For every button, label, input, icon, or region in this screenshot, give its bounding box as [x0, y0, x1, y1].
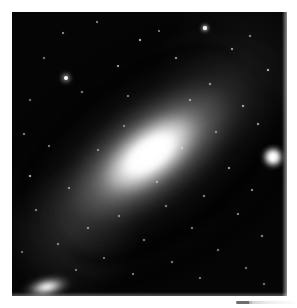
foreground-star — [68, 187, 70, 189]
foreground-star — [245, 267, 247, 269]
foreground-star — [217, 249, 219, 251]
foreground-star — [23, 133, 25, 135]
foreground-star — [156, 181, 158, 183]
foreground-star — [181, 147, 183, 149]
foreground-star — [237, 213, 239, 215]
foreground-star — [191, 227, 193, 229]
foreground-star — [203, 195, 205, 197]
foreground-star — [123, 125, 125, 127]
foreground-star — [132, 273, 134, 275]
foreground-star — [75, 269, 77, 271]
foreground-star — [199, 277, 201, 279]
foreground-star — [97, 149, 99, 151]
foreground-star — [271, 159, 273, 161]
foreground-star — [43, 57, 45, 59]
foreground-star — [215, 131, 217, 133]
foreground-star — [175, 57, 177, 59]
foreground-star — [48, 145, 50, 147]
foreground-star — [209, 83, 211, 85]
foreground-star — [171, 261, 173, 263]
foreground-star — [21, 251, 23, 253]
foreground-star — [263, 283, 265, 285]
foreground-star — [62, 32, 64, 34]
foreground-star — [29, 99, 31, 101]
foreground-star — [118, 215, 120, 217]
foreground-star — [57, 243, 59, 245]
foreground-star — [96, 21, 98, 23]
foreground-star — [189, 99, 191, 101]
foreground-star — [165, 205, 167, 207]
foreground-star — [203, 26, 206, 29]
foreground-star — [35, 209, 37, 211]
image-viewer-stage — [0, 0, 297, 308]
foreground-star — [103, 257, 105, 259]
foreground-star — [143, 239, 145, 241]
foreground-star — [249, 35, 251, 37]
foreground-star — [158, 30, 160, 32]
foreground-star — [81, 91, 83, 93]
scan-edge-artifact-dash — [237, 301, 249, 304]
foreground-star — [127, 95, 129, 97]
companion-galaxy-right — [258, 143, 287, 171]
galaxy-photograph[interactable] — [12, 12, 287, 296]
